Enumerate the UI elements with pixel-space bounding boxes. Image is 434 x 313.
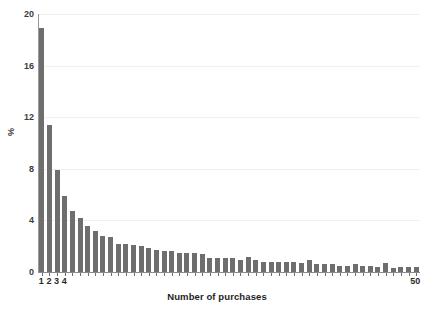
x-tick bbox=[103, 273, 104, 276]
bar bbox=[39, 28, 44, 272]
bar bbox=[330, 264, 335, 272]
bar bbox=[139, 246, 144, 272]
x-tick bbox=[141, 273, 142, 276]
x-tick bbox=[202, 273, 203, 276]
x-tick bbox=[95, 273, 96, 276]
bar bbox=[307, 260, 312, 272]
bar bbox=[284, 262, 289, 272]
bar bbox=[131, 245, 136, 272]
x-tick bbox=[256, 273, 257, 276]
bar bbox=[337, 266, 342, 272]
x-tick bbox=[401, 273, 402, 276]
x-tick bbox=[386, 273, 387, 276]
bar bbox=[192, 253, 197, 272]
x-tick bbox=[279, 273, 280, 276]
x-tick bbox=[286, 273, 287, 276]
x-tick bbox=[309, 273, 310, 276]
y-axis-tick-labels: 048121620 bbox=[0, 0, 34, 313]
bar bbox=[238, 260, 243, 272]
x-tick bbox=[172, 273, 173, 276]
x-tick bbox=[240, 273, 241, 276]
bar bbox=[276, 262, 281, 272]
bar bbox=[383, 263, 388, 272]
bar bbox=[207, 258, 212, 272]
bar bbox=[246, 257, 251, 272]
bar bbox=[299, 263, 304, 272]
y-tick-label-16: 16 bbox=[6, 62, 34, 71]
x-tick bbox=[393, 273, 394, 276]
bar bbox=[62, 196, 67, 272]
bar bbox=[70, 211, 75, 272]
bar bbox=[123, 244, 128, 272]
x-tick bbox=[248, 273, 249, 276]
bar bbox=[291, 262, 296, 272]
bar bbox=[398, 267, 403, 272]
x-tick bbox=[317, 273, 318, 276]
x-tick-label-2: 2 bbox=[46, 276, 51, 286]
x-tick bbox=[126, 273, 127, 276]
x-tick bbox=[378, 273, 379, 276]
bar bbox=[169, 251, 174, 272]
x-tick bbox=[325, 273, 326, 276]
y-axis-title: % bbox=[6, 128, 16, 136]
bar bbox=[200, 254, 205, 272]
x-tick bbox=[218, 273, 219, 276]
x-tick-label-4: 4 bbox=[62, 276, 67, 286]
bar bbox=[146, 248, 151, 273]
bar bbox=[353, 264, 358, 272]
y-tick-label-0: 0 bbox=[6, 268, 34, 277]
x-tick bbox=[149, 273, 150, 276]
x-tick bbox=[72, 273, 73, 276]
y-tick-label-4: 4 bbox=[6, 216, 34, 225]
bar bbox=[414, 267, 419, 272]
bar bbox=[406, 267, 411, 272]
x-tick bbox=[355, 273, 356, 276]
bar bbox=[253, 260, 258, 272]
x-tick bbox=[80, 273, 81, 276]
x-tick bbox=[363, 273, 364, 276]
y-axis-line bbox=[38, 14, 39, 273]
bar bbox=[261, 262, 266, 272]
x-tick bbox=[210, 273, 211, 276]
bar bbox=[78, 218, 83, 272]
x-tick bbox=[88, 273, 89, 276]
bar bbox=[55, 170, 60, 272]
x-tick bbox=[164, 273, 165, 276]
y-tick-label-12: 12 bbox=[6, 113, 34, 122]
bar bbox=[215, 258, 220, 272]
bar bbox=[322, 264, 327, 272]
bar bbox=[375, 267, 380, 272]
x-tick bbox=[263, 273, 264, 276]
bar bbox=[391, 268, 396, 272]
bar-chart: 048121620 % 123450 Number of purchases bbox=[0, 0, 434, 313]
x-tick bbox=[179, 273, 180, 276]
x-tick bbox=[225, 273, 226, 276]
bar bbox=[177, 253, 182, 272]
x-tick bbox=[134, 273, 135, 276]
bar bbox=[93, 231, 98, 272]
x-tick bbox=[187, 273, 188, 276]
bar bbox=[360, 266, 365, 272]
bar bbox=[230, 258, 235, 272]
x-tick bbox=[302, 273, 303, 276]
bar bbox=[108, 237, 113, 272]
bar bbox=[368, 266, 373, 272]
bar-series bbox=[38, 14, 420, 272]
bar bbox=[223, 258, 228, 272]
y-tick-label-8: 8 bbox=[6, 165, 34, 174]
x-tick bbox=[233, 273, 234, 276]
bar bbox=[345, 266, 350, 272]
x-axis-title: Number of purchases bbox=[0, 291, 434, 302]
plot-area bbox=[38, 14, 420, 272]
bar bbox=[100, 236, 105, 272]
bar bbox=[116, 244, 121, 272]
x-tick-label-3: 3 bbox=[54, 276, 59, 286]
x-tick bbox=[118, 273, 119, 276]
x-tick-label-50: 50 bbox=[410, 276, 420, 286]
x-tick-label-1: 1 bbox=[39, 276, 44, 286]
x-tick bbox=[294, 273, 295, 276]
bar bbox=[85, 226, 90, 272]
bar bbox=[154, 250, 159, 272]
x-tick bbox=[271, 273, 272, 276]
x-tick bbox=[195, 273, 196, 276]
